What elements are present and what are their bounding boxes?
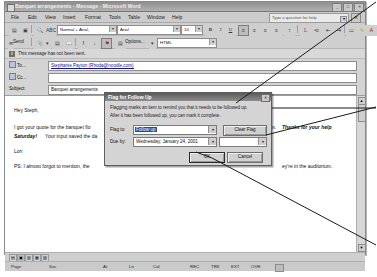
increase-indent-button[interactable]: ⇥ <box>333 25 344 36</box>
menu-bar: File Edit View Insert Format Tools Table… <box>5 12 365 23</box>
clear-flag-button[interactable]: Clear Flag <box>223 125 267 136</box>
chevron-down-icon[interactable]: ▾ <box>208 126 216 133</box>
due-by-date-combobox[interactable]: Wednesday, January 24, 2001 ▾ <box>133 137 217 147</box>
chevron-down-icon[interactable]: ▾ <box>209 39 216 45</box>
address-book-icon <box>9 61 16 68</box>
bulleted-list-button[interactable]: •≡ <box>311 25 322 36</box>
cc-row: Cc... <box>5 72 365 83</box>
address-book-icon <box>9 73 16 80</box>
align-left-button[interactable]: ≡ <box>238 25 249 36</box>
ask-a-question-placeholder: Type a question for help <box>272 15 317 20</box>
justify-button[interactable]: ≡ <box>271 25 282 36</box>
toolbar-separator <box>297 25 298 33</box>
status-ln: Ln <box>129 264 134 269</box>
menu-table[interactable]: Table <box>128 14 140 20</box>
flag-for-follow-up-button[interactable]: ⚑ <box>101 38 112 49</box>
chevron-down-icon[interactable]: ▾ <box>149 38 156 49</box>
message-format-value: HTML <box>160 40 172 45</box>
minimize-button[interactable]: _ <box>332 3 342 12</box>
scroll-down-arrow-icon[interactable]: ▼ <box>358 244 366 252</box>
to-field[interactable]: Stephanie Payton (Rhoda@noodle.com) <box>48 61 357 72</box>
spelling-button[interactable]: ABC <box>45 25 56 36</box>
email-toolbar: ✉ Send 📎 ▾ ▤ 📖 ! ↓ ⚑ ▤ Options... ▾ HTML… <box>5 36 365 49</box>
menu-tools[interactable]: Tools <box>109 14 121 20</box>
spell-check-icon[interactable] <box>275 264 284 272</box>
body-signature: Lori <box>14 148 22 154</box>
maximize-button[interactable]: □ <box>343 3 353 12</box>
font-combobox[interactable]: Arial ▾ <box>117 25 181 35</box>
status-bar: Page Sec At Ln Col REC TRK EXT OVR <box>5 261 365 271</box>
menu-help[interactable]: Help <box>172 14 182 20</box>
info-bar-text: This message has not been sent. <box>18 51 86 56</box>
toolbar-separator <box>75 38 76 46</box>
address-book-button[interactable]: 📖 <box>63 38 74 49</box>
font-color-button[interactable]: A <box>366 25 377 36</box>
status-trk: TRK <box>211 264 220 269</box>
chevron-down-icon[interactable]: ▾ <box>340 16 347 23</box>
underline-button[interactable]: U <box>225 25 236 36</box>
formatting-toolbar: ▤ ▣ 🔍 ABC Normal + Arial, ▾ Arial ▾ 10 ▾… <box>5 23 365 36</box>
menu-window[interactable]: Window <box>147 14 165 20</box>
importance-high-button[interactable]: ! <box>78 38 89 49</box>
font-size-combobox[interactable]: 10 ▾ <box>181 25 203 35</box>
dialog-description-line-2: After it has been followed up, you can m… <box>110 113 221 118</box>
word-app-icon <box>7 4 15 12</box>
close-button[interactable]: ✕ <box>354 3 364 12</box>
menu-format[interactable]: Format <box>85 14 101 20</box>
status-page: Page <box>11 264 21 269</box>
numbered-list-button[interactable]: ⒈ <box>300 25 311 36</box>
cc-field[interactable] <box>48 73 357 84</box>
importance-low-button[interactable]: ↓ <box>89 38 100 49</box>
info-icon: i <box>9 51 15 57</box>
ok-button[interactable]: OK <box>189 152 225 163</box>
status-col: Col <box>153 264 160 269</box>
chevron-down-icon[interactable]: ▾ <box>195 26 202 32</box>
cc-button-label: Cc... <box>17 75 26 80</box>
chevron-down-icon[interactable]: ▾ <box>208 138 216 145</box>
due-by-date-value: Wednesday, January 24, 2001 <box>136 139 198 144</box>
chevron-down-icon[interactable]: ▾ <box>173 26 180 32</box>
chevron-down-icon[interactable]: ▾ <box>44 38 51 49</box>
print-preview-button[interactable]: 🔍 <box>34 25 45 36</box>
print-button[interactable]: ▣ <box>20 25 31 36</box>
align-center-button[interactable]: ≡ <box>249 25 260 36</box>
flag-to-combobox[interactable]: Follow up ▾ <box>133 125 217 135</box>
cc-button[interactable]: Cc... <box>9 73 26 80</box>
flag-to-value: Follow up <box>135 127 157 132</box>
toolbar-separator <box>31 38 32 46</box>
to-row: To... Stephanie Payton (Rhoda@noodle.com… <box>5 60 365 71</box>
chevron-down-icon[interactable]: ▾ <box>109 26 116 32</box>
window-controls: _ □ ✕ <box>332 3 364 12</box>
ask-a-question-box[interactable]: Type a question for help ▾ <box>269 13 349 23</box>
chevron-down-icon[interactable]: ▾ <box>258 138 266 145</box>
window-title: Banquet arrangements - Message - Microso… <box>15 3 141 9</box>
menu-edit[interactable]: Edit <box>28 14 37 20</box>
options-button[interactable]: Options... <box>125 39 145 44</box>
align-right-button[interactable]: ≡ <box>260 25 271 36</box>
send-button[interactable]: Send <box>13 39 24 44</box>
body-scrollbar[interactable]: ▲ ▼ <box>356 96 365 252</box>
style-value: Normal + Arial, <box>60 27 89 32</box>
toolbar-separator <box>31 25 32 33</box>
dialog-description-line-1: Flagging marks an item to remind you tha… <box>110 105 248 110</box>
message-format-combobox[interactable]: HTML ▾ <box>157 38 217 48</box>
line-spacing-button[interactable]: ↕ <box>284 25 295 36</box>
save-button[interactable]: ▤ <box>9 25 20 36</box>
insert-item-button[interactable]: ▤ <box>52 38 63 49</box>
scrollbar-thumb[interactable] <box>358 104 366 122</box>
dialog-title: Flag for Follow Up <box>108 94 152 100</box>
close-document-icon[interactable]: ✕ <box>351 13 361 23</box>
decrease-indent-button[interactable]: ⇤ <box>322 25 333 36</box>
cancel-button[interactable]: Cancel <box>227 152 263 163</box>
to-button[interactable]: To... <box>9 61 26 68</box>
status-rec: REC <box>190 264 199 269</box>
menu-file[interactable]: File <box>11 14 19 20</box>
due-by-time-combobox[interactable]: ▾ <box>219 137 267 147</box>
menu-insert[interactable]: Insert <box>63 14 76 20</box>
menu-view[interactable]: View <box>45 14 56 20</box>
message-header: To... Stephanie Payton (Rhoda@noodle.com… <box>5 59 365 96</box>
dialog-close-icon[interactable]: ✕ <box>261 94 270 102</box>
due-by-label: Due by: <box>110 139 126 144</box>
style-combobox[interactable]: Normal + Arial, ▾ <box>57 25 117 35</box>
